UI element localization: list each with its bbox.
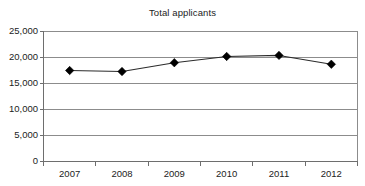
y-axis-tick-label: 25,000 [0, 25, 38, 36]
y-axis-tick-label: 10,000 [0, 103, 38, 114]
series-marker-diamond [118, 67, 126, 75]
tick-marks-group [40, 32, 358, 166]
chart-plot-area [0, 0, 365, 186]
x-axis-tick-label: 2007 [44, 168, 96, 179]
series-marker-diamond [170, 59, 178, 67]
x-axis-tick-label: 2012 [305, 168, 357, 179]
series-marker-diamond [65, 66, 73, 74]
chart-container: Total applicants 05,00010,00015,00020,00… [0, 0, 365, 186]
y-axis-tick-label: 15,000 [0, 77, 38, 88]
series-marker-diamond [222, 52, 230, 60]
series-marker-diamond [275, 51, 283, 59]
gridlines-group [44, 32, 358, 162]
x-axis-tick-label: 2008 [96, 168, 148, 179]
y-axis-tick-label: 0 [0, 155, 38, 166]
y-axis-tick-label: 5,000 [0, 129, 38, 140]
axes-group [44, 32, 358, 162]
series-marker-diamond [327, 60, 335, 68]
y-axis-tick-label: 20,000 [0, 51, 38, 62]
series-markers-group [65, 51, 335, 76]
x-axis-tick-label: 2009 [148, 168, 200, 179]
x-axis-tick-label: 2010 [201, 168, 253, 179]
x-axis-tick-label: 2011 [253, 168, 305, 179]
